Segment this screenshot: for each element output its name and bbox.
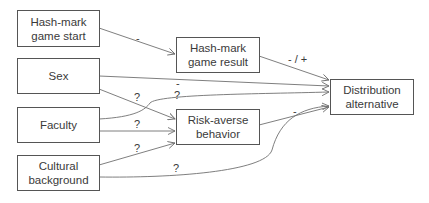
node-label: Distribution — [343, 84, 401, 96]
node-risk-averse-behavior: Risk-aversebehavior — [176, 109, 260, 145]
edge-label-start-to-result: - — [136, 33, 140, 44]
edge-label-risk-to-distribution: - — [293, 106, 297, 117]
node-label: alternative — [345, 98, 398, 110]
node-label: Hash-mark — [30, 16, 86, 28]
edge-label-cultural-to-distribution: ? — [173, 163, 179, 174]
node-label: Faculty — [40, 118, 77, 132]
edge-label-result-to-distribution: - / + — [288, 54, 307, 65]
node-label: Sex — [49, 69, 69, 83]
node-label: game result — [188, 56, 248, 68]
node-sex: Sex — [17, 58, 100, 94]
edge-label-sex-to-distribution: - — [176, 78, 180, 89]
node-hashmark-game-start: Hash-markgame start — [17, 10, 100, 47]
node-label: behavior — [196, 128, 240, 140]
edge-sex-to-distribution — [99, 76, 329, 86]
node-label: Cultural — [39, 160, 79, 172]
edge-label-sex-to-risk: ? — [134, 92, 140, 103]
edge-label-faculty-to-risk: ? — [134, 119, 140, 130]
node-cultural-background: Culturalbackground — [17, 155, 100, 191]
edge-label-cultural-to-risk: ? — [134, 143, 140, 154]
node-hashmark-game-result: Hash-markgame result — [176, 37, 260, 73]
node-label: Risk-averse — [188, 114, 249, 126]
node-faculty: Faculty — [17, 107, 100, 143]
node-label: Hash-mark — [190, 42, 246, 54]
node-label: background — [28, 174, 88, 186]
node-distribution-alternative: Distributionalternative — [330, 79, 414, 115]
edge-label-faculty-to-distribution: ? — [174, 90, 180, 101]
node-label: game start — [31, 30, 85, 42]
